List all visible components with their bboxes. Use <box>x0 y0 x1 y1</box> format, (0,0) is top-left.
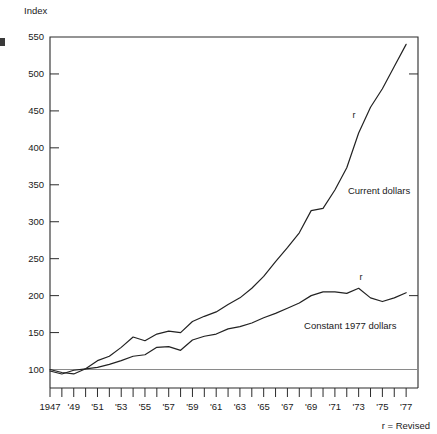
x-axis-ticks <box>50 388 406 397</box>
x-axis-tick-labels: 1947'49'51'53'55'57'59'61'63'65'67'69'71… <box>39 401 412 412</box>
revised-flag-current: r <box>352 110 355 120</box>
x-tick-label: '61 <box>210 401 222 412</box>
x-tick-label: '75 <box>376 401 388 412</box>
x-tick-label: 1947 <box>39 401 60 412</box>
x-tick-label: '77 <box>400 401 412 412</box>
x-tick-label: '65 <box>257 401 269 412</box>
y-tick-label: 450 <box>28 105 44 116</box>
plot-frame <box>50 37 418 388</box>
revised-flag-constant: r <box>360 272 363 282</box>
x-tick-label: '69 <box>305 401 317 412</box>
y-tick-label: 150 <box>28 327 44 338</box>
edge-crop-artifact <box>0 38 5 46</box>
x-tick-label: '73 <box>352 401 364 412</box>
y-tick-label: 300 <box>28 216 44 227</box>
current-dollars-label: Current dollars <box>348 185 411 196</box>
constant-dollars-label: Constant 1977 dollars <box>304 320 397 331</box>
y-tick-label: 550 <box>28 31 44 42</box>
y-tick-label: 100 <box>28 364 44 375</box>
y-tick-label: 400 <box>28 142 44 153</box>
series-line-constant-1977-dollars <box>50 288 406 374</box>
y-tick-label: 200 <box>28 290 44 301</box>
y-tick-label: 350 <box>28 179 44 190</box>
x-tick-label: '59 <box>186 401 198 412</box>
y-axis-title: Index <box>24 5 47 16</box>
y-axis-tick-labels: 100150200250300350400450500550 <box>28 31 44 375</box>
x-tick-label: '51 <box>91 401 103 412</box>
revised-footnote: r = Revised <box>382 420 430 431</box>
x-tick-label: '53 <box>115 401 127 412</box>
x-tick-label: '67 <box>281 401 293 412</box>
x-tick-label: '71 <box>329 401 341 412</box>
line-chart: Index 100150200250300350400450500550 194… <box>0 0 437 434</box>
x-tick-label: '49 <box>68 401 80 412</box>
y-tick-label: 500 <box>28 68 44 79</box>
x-tick-label: '63 <box>234 401 246 412</box>
y-tick-label: 250 <box>28 253 44 264</box>
chart-container: Index 100150200250300350400450500550 194… <box>0 0 437 434</box>
x-tick-label: '57 <box>163 401 175 412</box>
x-tick-label: '55 <box>139 401 151 412</box>
